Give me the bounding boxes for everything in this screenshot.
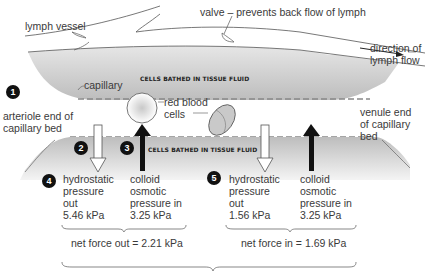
arteriole-net-force: net force out = 2.21 kPa xyxy=(71,237,183,249)
badge-2: 2 xyxy=(74,141,88,155)
label-valve: valve – prevents back flow of lymph xyxy=(200,6,366,18)
venule-colloid-osmotic-pressure: colloid osmotic pressure in 3.25 kPa xyxy=(300,173,352,221)
red-blood-cell-round xyxy=(127,93,157,123)
brace-overall xyxy=(62,262,356,271)
lymph-capillary-diagram: lymph vessel valve – prevents back flow … xyxy=(0,0,429,272)
label-cells-tissue-fluid-top: CELLS BATHED IN TISSUE FLUID xyxy=(140,75,249,82)
label-cells-tissue-fluid-bottom: CELLS BATHED IN TISSUE FLUID xyxy=(148,146,257,153)
red-blood-cell-side xyxy=(203,100,241,140)
arteriole-colloid-osmotic-pressure: colloid osmotic pressure in 3.25 kPa xyxy=(130,173,182,221)
label-venule-end: venule end of capillary bed xyxy=(360,106,411,142)
label-capillary: capillary xyxy=(84,79,123,91)
brace-arteriole-forces xyxy=(62,225,186,232)
venule-hydrostatic-pressure: hydrostatic pressure out 1.56 kPa xyxy=(229,173,280,221)
brace-venule-forces xyxy=(226,225,356,232)
label-lymph-vessel: lymph vessel xyxy=(25,20,86,32)
badge-3: 3 xyxy=(120,141,134,155)
badge-1: 1 xyxy=(6,85,20,99)
label-direction-of-lymph-flow: direction of lymph flow xyxy=(370,42,421,66)
label-red-blood-cells: red blood cells xyxy=(164,96,208,120)
label-arteriole-end: arteriole end of capillary bed xyxy=(3,110,73,134)
badge-5: 5 xyxy=(207,171,221,185)
badge-4: 4 xyxy=(42,174,56,188)
arteriole-hydrostatic-pressure: hydrostatic pressure out 5.46 kPa xyxy=(63,173,114,221)
venule-net-force: net force in = 1.69 kPa xyxy=(241,237,346,249)
